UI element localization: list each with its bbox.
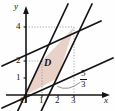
fraction-annotation: 5 3 xyxy=(80,69,87,89)
y-tick-label-2: 2 xyxy=(16,56,21,65)
fraction-numerator: 5 xyxy=(80,69,87,78)
origin-label: O xyxy=(20,96,27,105)
x-tick-label-2: 2 xyxy=(55,96,60,105)
y-tick-label-1: 1 xyxy=(16,73,21,82)
region-d-label: D xyxy=(44,58,51,68)
y-axis-label: y xyxy=(14,2,18,11)
annotation-arc xyxy=(58,83,81,89)
y-axis-arrow xyxy=(23,6,29,14)
x-tick-label-3: 3 xyxy=(71,96,76,105)
x-axis-label: x xyxy=(104,96,108,105)
y-tick-label-4: 4 xyxy=(16,22,21,31)
coordinate-plot-figure: y x O 1 2 3 1 2 4 D 5 3 xyxy=(0,0,115,111)
x-tick-label-1: 1 xyxy=(39,96,44,105)
fraction-denominator: 3 xyxy=(80,80,87,89)
